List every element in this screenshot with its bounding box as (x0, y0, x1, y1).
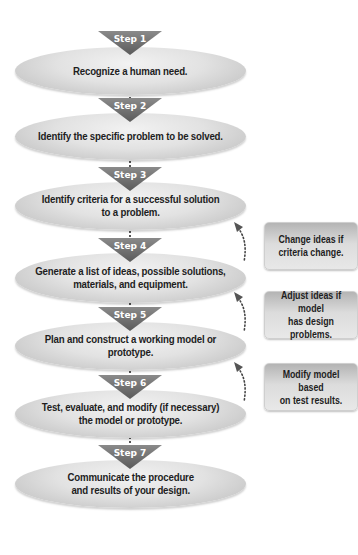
step-7-text: Communicate the procedure and results of… (67, 471, 193, 497)
note-adjust-ideas: Adjust ideas if model has design problem… (264, 291, 358, 339)
note-1-text: Change ideas if criteria change. (278, 233, 343, 259)
step-2-label: Step 2 (98, 101, 162, 111)
step-6-label: Step 6 (98, 378, 162, 388)
step-3-label: Step 3 (98, 170, 162, 180)
step-2-text: Identify the specific problem to be solv… (38, 130, 223, 143)
note-modify-model: Modify model based on test results. (264, 363, 358, 411)
step-6-text: Test, evaluate, and modify (if necessary… (42, 401, 220, 427)
step-5-text: Plan and construct a working model or pr… (24, 333, 237, 359)
note-2-text: Adjust ideas if model has design problem… (271, 289, 352, 341)
step-4-text: Generate a list of ideas, possible solut… (35, 265, 225, 291)
step-1-arrow: Step 1 (98, 31, 162, 55)
step-7-label: Step 7 (98, 448, 162, 458)
feedback-arrow-2-icon (232, 292, 252, 336)
note-change-ideas: Change ideas if criteria change. (264, 222, 358, 270)
step-2-arrow: Step 2 (98, 98, 162, 122)
step-5-arrow: Step 5 (98, 307, 162, 331)
step-3-text: Identify criteria for a successful solut… (42, 193, 220, 219)
step-4-label: Step 4 (98, 241, 162, 251)
step-7-arrow: Step 7 (98, 445, 162, 469)
feedback-arrow-1-icon (232, 222, 252, 266)
step-6-arrow: Step 6 (98, 375, 162, 399)
step-1-label: Step 1 (98, 34, 162, 44)
step-5-label: Step 5 (98, 310, 162, 320)
step-1-text: Recognize a human need. (73, 65, 187, 78)
step-4-arrow: Step 4 (98, 238, 162, 262)
note-3-text: Modify model based on test results. (271, 368, 352, 407)
feedback-arrow-3-icon (232, 362, 252, 406)
step-3-arrow: Step 3 (98, 167, 162, 191)
